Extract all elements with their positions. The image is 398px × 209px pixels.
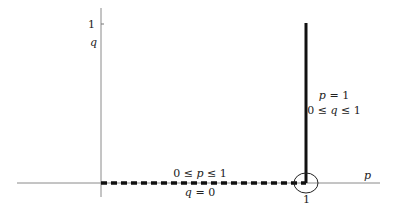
best-response-diagram: 1 q p 1 p = 1 0 ≤ q ≤ 1 0 ≤ p ≤ 1 q = 0 xyxy=(0,0,398,209)
vertical-segment-label-1: p = 1 xyxy=(319,89,349,102)
y-tick-label: 1 xyxy=(88,18,95,31)
x-tick-label: 1 xyxy=(303,193,310,206)
horizontal-segment-label-1: 0 ≤ p ≤ 1 xyxy=(173,167,226,180)
vertical-segment-label-2: 0 ≤ q ≤ 1 xyxy=(307,104,360,117)
y-axis-label: q xyxy=(90,36,97,49)
x-axis-label: p xyxy=(364,169,371,182)
horizontal-segment-label-2: q = 0 xyxy=(185,186,215,199)
